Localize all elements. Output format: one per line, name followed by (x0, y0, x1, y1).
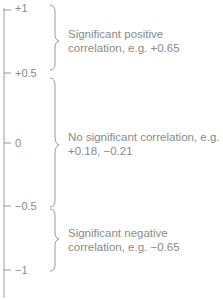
tick-label-minus-1: −1 (15, 264, 28, 276)
brace-negative (50, 209, 59, 271)
negative-description: Significant negative correlation, e.g. −… (68, 226, 180, 254)
none-line-2: +0.18, −0.21 (68, 144, 220, 158)
tick-label-plus-1: +1 (15, 2, 28, 14)
positive-line-2: correlation, e.g. +0.65 (68, 41, 180, 55)
positive-line-1: Significant positive (68, 27, 180, 41)
brace-positive (50, 5, 59, 70)
none-line-1: No significant correlation, e.g. (68, 130, 220, 144)
tick-label-minus-0.5: −0.5 (15, 200, 37, 212)
positive-description: Significant positive correlation, e.g. +… (68, 27, 180, 55)
none-description: No significant correlation, e.g. +0.18, … (68, 130, 220, 158)
tick-label-plus-0.5: +0.5 (15, 67, 37, 79)
tick-label-zero: 0 (15, 137, 21, 149)
brace-none (50, 78, 59, 207)
negative-line-2: correlation, e.g. −0.65 (68, 240, 180, 254)
negative-line-1: Significant negative (68, 226, 180, 240)
